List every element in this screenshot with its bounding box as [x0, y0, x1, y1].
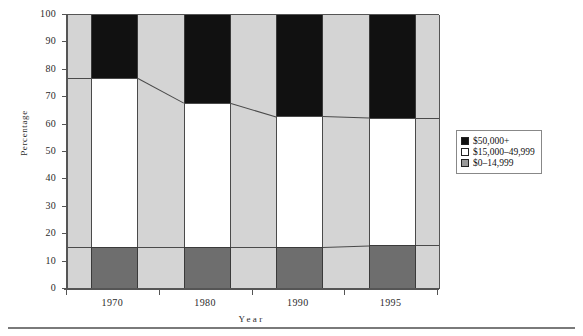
connector-low-lead	[68, 247, 91, 248]
connector-mid	[138, 78, 184, 104]
x-axis-title: Year	[66, 314, 437, 324]
x-tick-label-1980: 1980	[170, 297, 240, 308]
segment-15000-49999	[276, 116, 323, 246]
connector-mid	[230, 103, 276, 118]
legend-item: $50,000+	[461, 136, 535, 146]
y-tick-label: 40	[22, 172, 56, 183]
connector-low	[138, 247, 184, 248]
legend-item: $0–14,999	[461, 158, 535, 168]
y-tick-label: 60	[22, 118, 56, 129]
segment-50000-plus	[91, 15, 138, 78]
x-tick-mark	[66, 288, 67, 295]
legend-swatch-gray-icon	[461, 159, 469, 167]
legend-label: $50,000+	[473, 136, 509, 146]
chart-legend: $50,000+$15,000–49,999$0–14,999	[456, 130, 542, 174]
y-tick-label: 100	[22, 8, 56, 19]
connector-mid-lead	[68, 78, 91, 79]
connector-low	[323, 245, 369, 247]
bar-1990	[276, 15, 323, 289]
segment-15000-49999	[369, 118, 416, 245]
connector-mid-trail	[416, 118, 439, 119]
y-tick-label: 30	[22, 200, 56, 211]
bar-1980	[184, 15, 231, 289]
y-tick-label: 50	[22, 145, 56, 156]
x-tick-mark	[437, 288, 438, 295]
segment-50000-plus	[369, 15, 416, 118]
x-tick-label-1990: 1990	[263, 297, 333, 308]
bar-1995	[369, 15, 416, 289]
chart-figure: Percentage 1009080706050403020100 197019…	[0, 0, 583, 336]
segment-50000-plus	[184, 15, 231, 103]
legend-label: $15,000–49,999	[473, 147, 535, 157]
segment-0-14999	[91, 247, 138, 289]
footer-rule	[8, 327, 575, 329]
y-tick-label: 20	[22, 227, 56, 238]
y-tick-label: 80	[22, 63, 56, 74]
y-tick-label: 90	[22, 35, 56, 46]
segment-0-14999	[369, 245, 416, 289]
segment-15000-49999	[91, 78, 138, 247]
bar-1970	[91, 15, 138, 289]
x-tick-label-1995: 1995	[356, 297, 426, 308]
x-tick-mark	[344, 288, 345, 295]
segment-0-14999	[276, 247, 323, 289]
legend-label: $0–14,999	[473, 158, 513, 168]
y-tick-label: 10	[22, 255, 56, 266]
x-tick-mark	[159, 288, 160, 295]
y-tick-label: 70	[22, 90, 56, 101]
y-tick-label: 0	[22, 282, 56, 293]
connector-low-trail	[416, 245, 439, 246]
connector-low	[231, 247, 277, 248]
segment-15000-49999	[184, 103, 231, 247]
x-tick-mark	[252, 288, 253, 295]
legend-item: $15,000–49,999	[461, 147, 535, 157]
plot-right-border	[439, 15, 440, 289]
segment-0-14999	[184, 247, 231, 289]
x-tick-label-1970: 1970	[77, 297, 147, 308]
legend-swatch-black-icon	[461, 137, 469, 145]
segment-50000-plus	[276, 15, 323, 116]
plot-area	[66, 14, 439, 289]
legend-swatch-white-icon	[461, 148, 469, 156]
connector-mid	[323, 116, 369, 118]
